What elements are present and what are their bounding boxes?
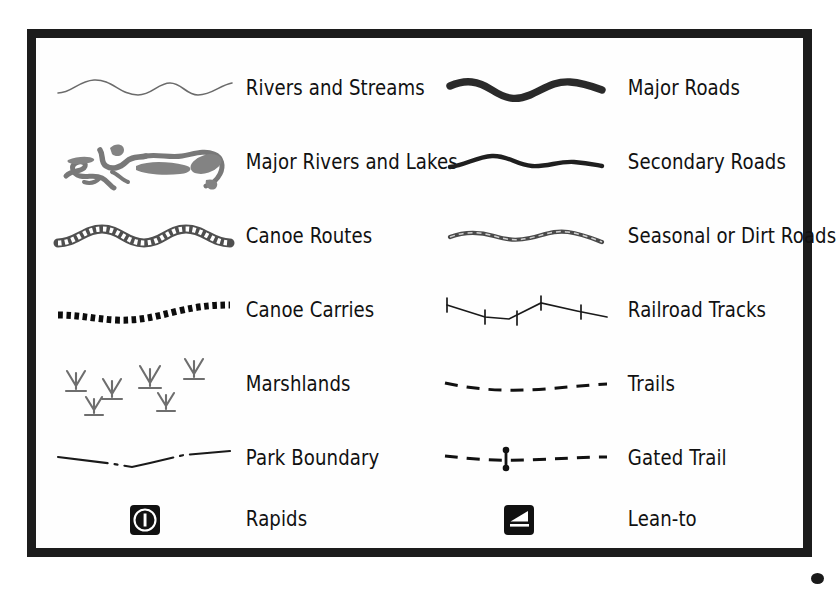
legend-entry-rapids[interactable]: Rapids bbox=[44, 483, 424, 557]
marsh-grass-tufts-symbol bbox=[44, 348, 244, 422]
legend-entry-secondary-roads[interactable]: Secondary Roads bbox=[426, 126, 804, 200]
legend-left-column: Rivers and Streams bbox=[44, 38, 424, 548]
legend-entry-trails[interactable]: Trails bbox=[426, 348, 804, 422]
legend-label: Canoe Carries bbox=[244, 301, 374, 322]
legend-entry-major-rivers-and-lakes[interactable]: Major Rivers and Lakes bbox=[44, 126, 424, 200]
beaded-wavy-band-symbol bbox=[44, 200, 244, 274]
lean-to-icon bbox=[426, 483, 626, 557]
railroad-tick-line-symbol bbox=[426, 274, 626, 348]
legend-label: Park Boundary bbox=[244, 449, 379, 470]
legend-label: Rapids bbox=[244, 510, 307, 531]
legend-label: Trails bbox=[626, 375, 675, 396]
legend-label: Rivers and Streams bbox=[244, 79, 425, 100]
legend-right-column: Major Roads Secondary Roads bbox=[426, 38, 804, 548]
medium-wavy-line-symbol bbox=[426, 126, 626, 200]
legend-entry-canoe-carries[interactable]: Canoe Carries bbox=[44, 274, 424, 348]
gate-marker bbox=[503, 447, 510, 472]
legend-label: Canoe Routes bbox=[244, 227, 372, 248]
legend-entry-rivers-and-streams[interactable]: Rivers and Streams bbox=[44, 52, 424, 126]
dashed-line-symbol bbox=[426, 348, 626, 422]
legend-entry-marshlands[interactable]: Marshlands bbox=[44, 348, 424, 422]
rapids-icon bbox=[44, 483, 244, 557]
legend-entry-canoe-routes[interactable]: Canoe Routes bbox=[44, 200, 424, 274]
legend-label: Marshlands bbox=[244, 375, 351, 396]
legend-label: Gated Trail bbox=[626, 449, 727, 470]
legend-entry-major-roads[interactable]: Major Roads bbox=[426, 52, 804, 126]
legend-label: Railroad Tracks bbox=[626, 301, 766, 322]
corner-mark bbox=[811, 573, 824, 584]
legend-label: Major Roads bbox=[626, 79, 740, 100]
mottled-thin-line-symbol bbox=[426, 200, 626, 274]
legend-label: Secondary Roads bbox=[626, 153, 786, 174]
square-dotted-line-symbol bbox=[44, 274, 244, 348]
legend-entry-railroad-tracks[interactable]: Railroad Tracks bbox=[426, 274, 804, 348]
thin-wavy-line-symbol bbox=[44, 52, 244, 126]
thick-wavy-line-symbol bbox=[426, 52, 626, 126]
legend-content: Rivers and Streams bbox=[36, 38, 803, 548]
river-network-lakes-symbol bbox=[44, 126, 244, 200]
legend-entry-seasonal-or-dirt-roads[interactable]: Seasonal or Dirt Roads bbox=[426, 200, 804, 274]
legend-label: Seasonal or Dirt Roads bbox=[626, 227, 836, 248]
legend-frame: Rivers and Streams bbox=[27, 29, 812, 557]
legend-label: Lean-to bbox=[626, 510, 697, 531]
legend-entry-lean-to[interactable]: Lean-to bbox=[426, 483, 804, 557]
